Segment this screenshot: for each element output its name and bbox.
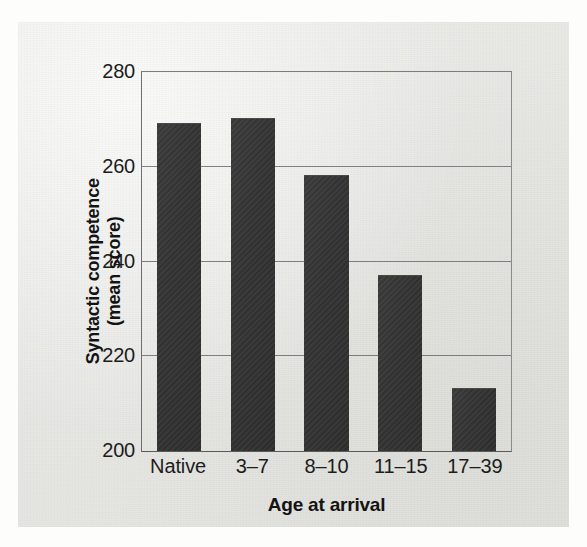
y-axis-title: Syntactic competence (mean score): [83, 106, 125, 436]
y-axis-title-line2: (mean score): [104, 106, 125, 436]
x-tick-native: Native: [141, 456, 215, 486]
x-tick-11-15: 11–15: [364, 456, 438, 486]
y-axis-title-line1: Syntactic competence: [83, 178, 103, 364]
x-tick-8-10: 8–10: [289, 456, 363, 486]
bar-3-7: [231, 118, 275, 451]
x-axis-title: Age at arrival: [141, 494, 512, 516]
bar-8-10: [304, 175, 348, 451]
y-tick-280: 280: [102, 61, 135, 81]
bar-11-15: [378, 275, 422, 451]
figure-root: 280 260 240 220 200 Native 3–7 8–10 11–1…: [0, 0, 587, 547]
x-tick-17-39: 17–39: [438, 456, 512, 486]
bar-17-39: [452, 388, 496, 451]
x-tick-3-7: 3–7: [215, 456, 289, 486]
plot-area: [141, 71, 512, 452]
bar-native: [157, 123, 201, 451]
x-axis-tick-labels: Native 3–7 8–10 11–15 17–39: [141, 456, 512, 486]
y-tick-200: 200: [102, 440, 135, 460]
